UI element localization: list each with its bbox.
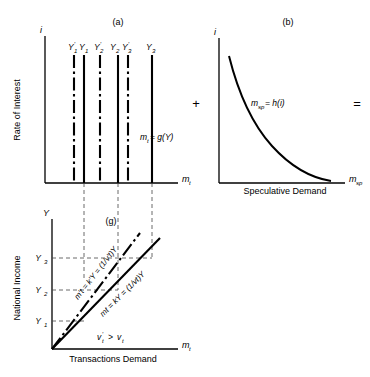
velocity-line-primed-label: m′t = k′Y = (1/v′t)Y — [72, 244, 119, 301]
panel-a-y-axis-var: i — [40, 25, 43, 35]
velocity-inequality: v ′ t > v t — [97, 331, 124, 344]
panel-g-x-axis-var-sub: t — [189, 346, 191, 352]
inequality-right-sub: t — [122, 338, 124, 344]
panel-a-curve-label: m t = g(Y) — [140, 132, 174, 144]
panel-b-x-axis-var-sub: sp — [356, 180, 363, 186]
panel-a-tick-4-sub: 3 — [128, 48, 132, 54]
panel-a-tick-4-prime: ′ — [128, 41, 130, 47]
panel-a-curve-label-sub: t — [147, 138, 149, 144]
panel-a-tick-label-3: Y 2 — [110, 42, 120, 54]
panel-b-curve-label-sub: sp — [258, 104, 265, 110]
panel-g-y-axis-var: Y — [43, 208, 50, 218]
panel-a-tick-5-sub: 3 — [152, 48, 156, 54]
panel-g-label: (g) — [106, 216, 117, 226]
panel-g-tick-0-base: Y — [35, 316, 42, 326]
inequality-left-sub: t — [102, 338, 104, 344]
panel-a: (a) i m t Rate of Interest Y ′ 1 Y 1 Y — [12, 17, 191, 186]
panel-a-tick-label-2: Y ′ 2 — [94, 41, 104, 54]
panel-g-tick-label-1: Y 2 — [35, 285, 48, 297]
equals-operator: = — [353, 96, 361, 111]
panel-g-tick-label-0: Y 1 — [35, 316, 47, 328]
panel-a-tick-label-4: Y ′ 3 — [122, 41, 132, 54]
plus-operator: + — [192, 96, 200, 111]
panel-a-tick-0-prime: ′ — [74, 41, 76, 47]
panel-a-x-axis-var-sub: t — [189, 180, 191, 186]
panel-b-curve-label: m sp = h(i) — [251, 98, 285, 110]
panel-a-tick-1-sub: 1 — [85, 48, 88, 54]
panel-g-y-axis-label: National Income — [12, 255, 22, 320]
figure-root: (a) i m t Rate of Interest Y ′ 1 Y 1 Y — [0, 0, 370, 377]
panel-g-tick-2-base: Y — [35, 253, 42, 263]
panel-b: (b) i m sp Speculative Demand m sp = h(i… — [214, 17, 363, 196]
panel-a-tick-2-prime: ′ — [100, 41, 102, 47]
inequality-operator: > — [108, 332, 113, 342]
panel-b-label: (b) — [283, 17, 294, 27]
panel-a-tick-label-1: Y 1 — [79, 42, 88, 54]
panel-g-tick-1-base: Y — [35, 285, 42, 295]
panel-a-y-axis-label: Rate of Interest — [12, 79, 22, 141]
panel-b-x-axis-var: m sp — [349, 174, 363, 186]
panel-g: (g) Y m t National Income Transactions D… — [12, 208, 191, 364]
panel-b-x-axis-label: Speculative Demand — [243, 186, 326, 196]
panel-g-tick-0-sub: 1 — [44, 322, 47, 328]
panel-g-x-axis-label: Transactions Demand — [69, 354, 157, 364]
panel-a-tick-0-sub: 1 — [74, 48, 77, 54]
panel-a-tick-2-sub: 2 — [99, 48, 104, 54]
inequality-left-prime: ′ — [102, 331, 104, 337]
panel-a-label: (a) — [113, 17, 124, 27]
panel-g-tick-label-2: Y 3 — [35, 253, 48, 265]
speculative-demand-curve — [229, 56, 331, 181]
panel-b-y-axis-var: i — [214, 27, 217, 37]
panel-g-tick-1-sub: 2 — [43, 291, 48, 297]
panel-a-tick-label-0: Y ′ 1 — [68, 41, 77, 54]
panel-g-tick-2-sub: 3 — [44, 259, 48, 265]
panel-a-tick-3-sub: 2 — [115, 48, 120, 54]
panel-a-curve-label-rest: = g(Y) — [150, 132, 174, 142]
panel-b-curve-label-rest: = h(i) — [265, 98, 285, 108]
panel-a-x-axis-var: m t — [182, 174, 191, 186]
panel-a-tick-label-5: Y 3 — [146, 42, 156, 54]
economics-figure: (a) i m t Rate of Interest Y ′ 1 Y 1 Y — [0, 0, 370, 377]
panel-g-x-axis-var: m t — [182, 340, 191, 352]
